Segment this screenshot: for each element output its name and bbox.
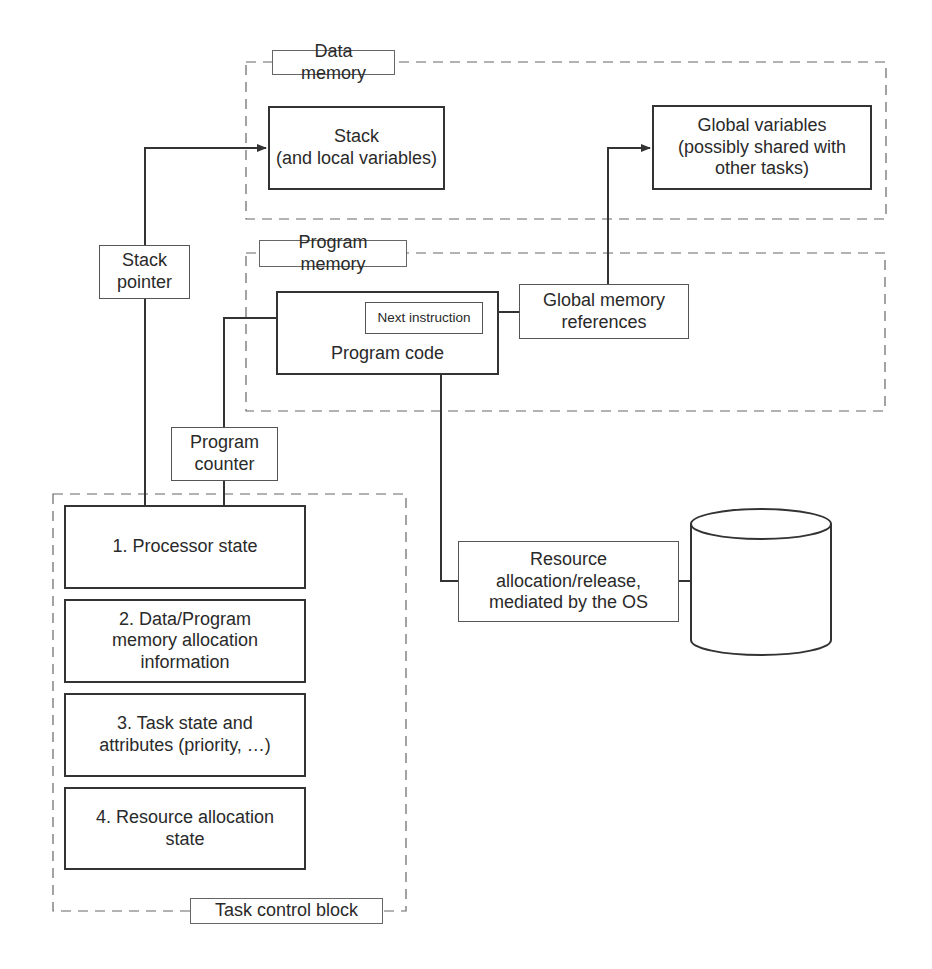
tcb-item-resource-state: 4. Resource allocation state bbox=[64, 787, 306, 870]
data-memory-label: Data memory bbox=[272, 50, 395, 75]
next-instruction-box: Next instruction bbox=[365, 302, 483, 334]
stack-box: Stack (and local variables) bbox=[268, 106, 445, 190]
task-memory-diagram: Data memory Program memory Task control … bbox=[0, 0, 932, 969]
program-memory-label: Program memory bbox=[259, 240, 407, 267]
global-memory-references-box: Global memory references bbox=[519, 284, 689, 339]
global-refs-to-globals-wire bbox=[608, 148, 650, 284]
resource-store-cylinder-icon bbox=[691, 509, 831, 655]
tcb-item-processor-state: 1. Processor state bbox=[64, 505, 306, 589]
tcb-item-task-state: 3. Task state and attributes (priority, … bbox=[64, 693, 306, 777]
tcb-item-memory-allocation: 2. Data/Program memory allocation inform… bbox=[64, 599, 306, 683]
resource-allocation-box: Resource allocation/release, mediated by… bbox=[458, 541, 679, 622]
global-variables-box: Global variables (possibly shared with o… bbox=[652, 105, 872, 190]
task-control-block-label: Task control block bbox=[190, 898, 383, 924]
code-to-resource-wire bbox=[441, 374, 458, 581]
program-code-label: Program code bbox=[331, 343, 444, 365]
stack-pointer-box: Stack pointer bbox=[99, 245, 190, 299]
program-counter-box: Program counter bbox=[171, 427, 278, 481]
